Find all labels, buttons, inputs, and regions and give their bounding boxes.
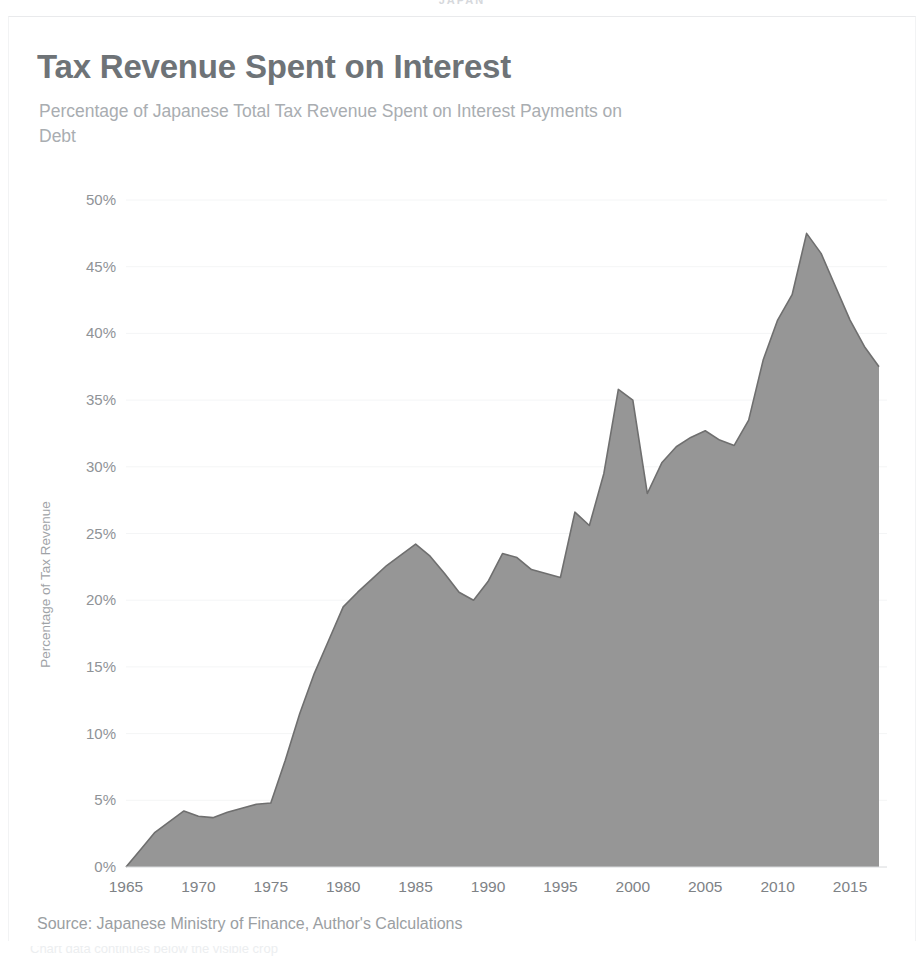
x-axis-tick-label: 1990 (458, 878, 518, 896)
chart-card: Tax Revenue Spent on Interest Percentage… (8, 16, 916, 941)
y-axis-tick-label: 30% (64, 458, 116, 475)
y-axis-tick-label: 20% (64, 591, 116, 608)
y-axis-tick-label: 10% (64, 725, 116, 742)
x-axis-tick-label: 2015 (820, 878, 880, 896)
y-axis-tick-label: 5% (64, 791, 116, 808)
page-header-strip: JAPAN (0, 0, 924, 16)
y-axis-tick-label: 50% (64, 191, 116, 208)
x-axis-tick-label: 1985 (386, 878, 446, 896)
plot-area: Percentage of Tax Revenue 0%5%10%15%20%2… (9, 17, 917, 942)
x-axis-tick-label: 2005 (675, 878, 735, 896)
x-axis-tick-label: 1980 (313, 878, 373, 896)
chart-source-note: Source: Japanese Ministry of Finance, Au… (37, 915, 463, 933)
x-axis-tick-label: 1970 (168, 878, 228, 896)
y-axis-tick-label: 25% (64, 525, 116, 542)
x-axis-tick-label: 2010 (748, 878, 808, 896)
footer-ghost-strip: Chart data continues below the visible c… (8, 946, 916, 968)
y-axis-title: Percentage of Tax Revenue (38, 485, 53, 685)
y-axis-tick-label: 40% (64, 324, 116, 341)
y-axis-tick-label: 0% (64, 858, 116, 875)
area-series-group (126, 233, 879, 867)
x-axis-tick-label: 1965 (96, 878, 156, 896)
area-fill (126, 233, 879, 867)
y-axis-tick-label: 35% (64, 391, 116, 408)
x-axis-tick-label: 1995 (530, 878, 590, 896)
y-axis-tick-label: 15% (64, 658, 116, 675)
footer-ghost-caption: Chart data continues below the visible c… (30, 946, 278, 956)
page-header-label: JAPAN (0, 0, 924, 6)
y-axis-tick-label: 45% (64, 258, 116, 275)
x-axis-tick-label: 1975 (241, 878, 301, 896)
area-chart-svg (9, 17, 917, 942)
x-axis-tick-label: 2000 (603, 878, 663, 896)
